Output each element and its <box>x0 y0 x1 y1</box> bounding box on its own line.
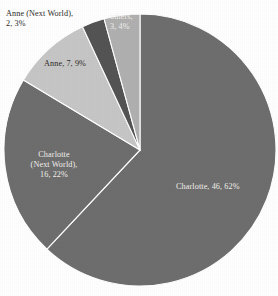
pie-chart-canvas <box>0 0 278 296</box>
pie-chart: Charlotte, 46, 62% Charlotte (Next World… <box>0 0 278 296</box>
pie-slice-group <box>4 14 276 286</box>
